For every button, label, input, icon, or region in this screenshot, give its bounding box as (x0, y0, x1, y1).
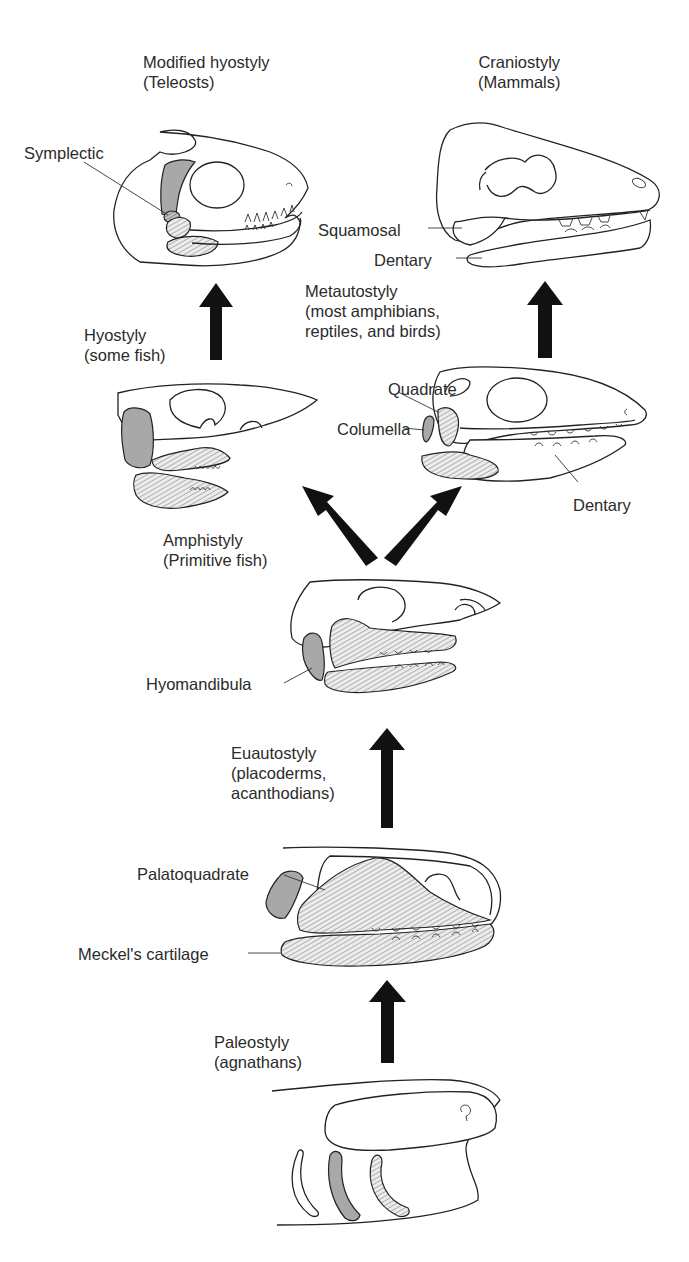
mammal-skull (428, 123, 659, 267)
stage-group-line2: reptiles, and birds) (305, 321, 441, 341)
amphistyly-skull (284, 580, 500, 693)
label-amphistyly: Amphistyly (Primitive fish) (163, 530, 268, 570)
stage-group-line2: acanthodians) (231, 783, 335, 803)
label-paleostyly: Paleostyly (agnathans) (214, 1032, 302, 1072)
jaw-suspension-diagram (0, 0, 689, 1262)
label-dentary-mammal: Dentary (374, 250, 432, 270)
label-palatoquadrate: Palatoquadrate (137, 864, 249, 884)
stage-group: (Primitive fish) (163, 550, 268, 570)
arrow-paleostyly-to-euautostyly (369, 980, 406, 1063)
label-symplectic: Symplectic (24, 143, 104, 163)
label-quadrate: Quadrate (388, 379, 457, 399)
label-modified-hyostyly: Modified hyostyly (Teleosts) (143, 52, 270, 92)
label-dentary-reptile: Dentary (573, 495, 631, 515)
arrow-amphistyly-to-metautostyly (384, 486, 462, 566)
hyostyly-skull (118, 384, 317, 509)
stage-name: Paleostyly (214, 1032, 302, 1052)
arrow-metautostyly-to-mammal (527, 281, 563, 358)
label-hyomandibula: Hyomandibula (146, 674, 251, 694)
euautostyly-skull (248, 847, 501, 966)
label-squamosal: Squamosal (318, 220, 401, 240)
label-hyostyly: Hyostyly (some fish) (84, 325, 166, 365)
stage-group: (Teleosts) (143, 72, 270, 92)
stage-name: Craniostyly (478, 52, 561, 72)
arrow-hyostyly-to-teleost (199, 283, 233, 360)
stage-name: Euautostyly (231, 743, 335, 763)
arrow-euautostyly-to-amphistyly (369, 728, 405, 828)
label-craniostyly: Craniostyly (Mammals) (478, 52, 561, 92)
stage-name: Hyostyly (84, 325, 166, 345)
label-metautostyly: Metautostyly (most amphibians, reptiles,… (305, 281, 441, 341)
stage-name: Modified hyostyly (143, 52, 270, 72)
stage-name: Amphistyly (163, 530, 268, 550)
stage-group-line1: (placoderms, (231, 763, 335, 783)
label-columella: Columella (337, 419, 410, 439)
arrow-amphistyly-to-hyostyly (302, 486, 378, 566)
stage-group-line1: (most amphibians, (305, 301, 441, 321)
label-euautostyly: Euautostyly (placoderms, acanthodians) (231, 743, 335, 803)
paleostyly-head (272, 1080, 500, 1225)
stage-group: (agnathans) (214, 1052, 302, 1072)
stage-group: (some fish) (84, 345, 166, 365)
stage-name: Metautostyly (305, 281, 441, 301)
stage-group: (Mammals) (478, 72, 561, 92)
label-meckels-cartilage: Meckel's cartilage (78, 944, 209, 964)
teleost-skull (84, 130, 308, 266)
